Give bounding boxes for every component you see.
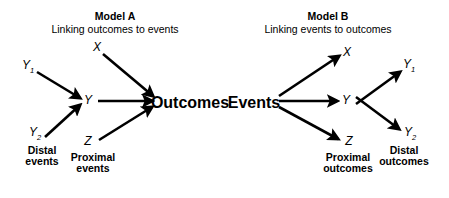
arrow-y1-to-y — [37, 72, 80, 98]
model-a-node-z: Z — [84, 135, 91, 148]
node-subscript: 2 — [412, 133, 416, 142]
diagram-canvas: Model A Linking outcomes to events Y1 Y2… — [0, 0, 449, 198]
arrow-y-to-y2 — [356, 97, 399, 129]
caption-line: events — [25, 156, 58, 167]
arrow-events-to-x — [279, 56, 339, 96]
model-a-caption-proximal-events: Proximal events — [71, 152, 115, 175]
model-a-node-y1: Y1 — [22, 59, 34, 74]
model-b-node-y1: Y1 — [403, 58, 415, 73]
node-label: Y — [84, 93, 92, 107]
model-b-node-x: X — [343, 46, 351, 59]
node-label: Y — [29, 125, 37, 139]
arrow-z-to-outcomes — [99, 107, 152, 140]
caption-line: events — [71, 163, 115, 174]
arrow-events-to-z — [279, 107, 338, 139]
model-b-title: Model B — [308, 11, 349, 22]
arrow-y2-to-y — [45, 105, 80, 137]
model-b-subtitle: Linking events to outcomes — [264, 24, 391, 35]
arrow-x-to-outcomes — [103, 54, 153, 96]
arrow-y-to-y1 — [356, 72, 400, 104]
node-label: Y — [342, 93, 350, 107]
node-label: X — [93, 40, 101, 54]
node-subscript: 2 — [37, 133, 41, 142]
model-a-node-y2: Y2 — [29, 126, 41, 141]
model-b-node-y: Y — [342, 94, 350, 107]
node-label: X — [343, 45, 351, 59]
model-a-title: Model A — [95, 11, 135, 22]
model-b-node-events: Events — [228, 94, 280, 111]
caption-line: outcomes — [379, 156, 429, 167]
model-a-subtitle: Linking outcomes to events — [51, 24, 178, 35]
model-b-caption-proximal-outcomes: Proximal outcomes — [323, 152, 373, 175]
node-label: Y — [403, 57, 411, 71]
node-label: Y — [404, 125, 412, 139]
node-label: Y — [22, 58, 30, 72]
model-a-node-x: X — [93, 41, 101, 54]
model-a-node-y: Y — [84, 94, 92, 107]
node-subscript: 1 — [411, 65, 415, 74]
model-a-node-outcomes: Outcomes — [151, 94, 229, 111]
model-b-caption-distal-outcomes: Distal outcomes — [379, 145, 429, 168]
node-label: Z — [84, 134, 91, 148]
model-a-caption-distal-events: Distal events — [25, 145, 58, 168]
model-b-node-z: Z — [345, 135, 352, 148]
caption-line: outcomes — [323, 163, 373, 174]
node-label: Z — [345, 134, 352, 148]
model-b-node-y2: Y2 — [404, 126, 416, 141]
node-subscript: 1 — [30, 66, 34, 75]
